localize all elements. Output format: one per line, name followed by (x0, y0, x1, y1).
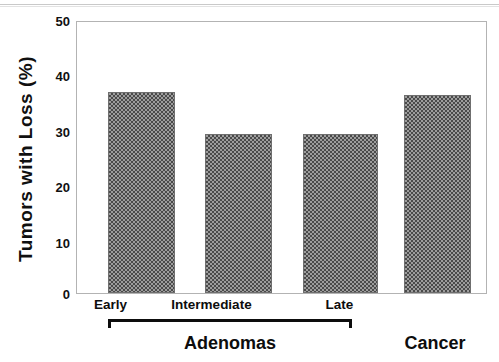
adenomas-group-bracket (108, 319, 352, 328)
y-tick-label-0: 0 (22, 294, 70, 295)
y-tick-label-50: 50 (22, 21, 70, 22)
category-label-late: Late (302, 297, 377, 312)
group-label-cancer: Cancer (370, 333, 499, 354)
group-label-adenomas: Adenomas (150, 333, 310, 354)
y-tick-label-10: 10 (22, 243, 70, 244)
scan-artifact-line (0, 4, 499, 5)
category-label-intermediate: Intermediate (154, 297, 269, 312)
y-tick-label-30: 30 (22, 132, 70, 133)
y-tick-label-20: 20 (22, 187, 70, 188)
bar-late (303, 134, 378, 293)
bar-intermediate (205, 134, 272, 293)
y-axis-title: Tumors with Loss (%) (15, 24, 37, 294)
plot-area (76, 21, 487, 294)
bar-chart-figure: Tumors with Loss (%) 50 40 30 20 10 0 Ea… (0, 0, 499, 362)
y-tick-label-40: 40 (22, 76, 70, 77)
bar-early (108, 92, 175, 293)
category-label-early: Early (77, 297, 144, 312)
bar-cancer (404, 95, 471, 293)
scan-artifact-line-secondary (0, 6, 499, 7)
